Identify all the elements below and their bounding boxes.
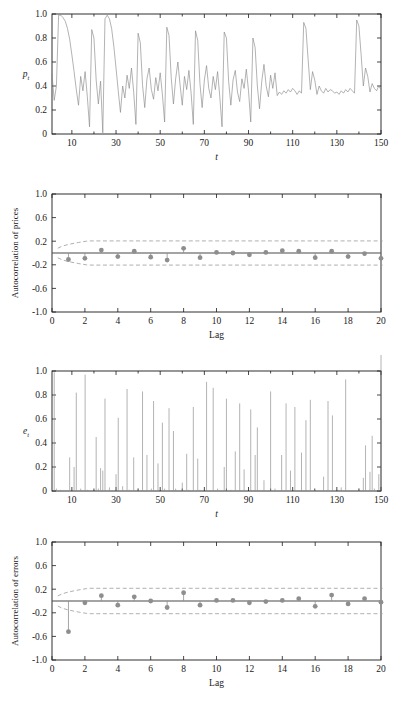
acf-marker xyxy=(214,250,219,255)
x-tick-label: 12 xyxy=(245,664,255,674)
x-tick-label: 50 xyxy=(155,138,165,148)
y-tick-label: 0.2 xyxy=(35,105,47,115)
confidence-lower xyxy=(58,606,383,614)
x-tick-label: 30 xyxy=(111,138,121,148)
acf-marker xyxy=(99,593,104,598)
y-tick-label: 0.6 xyxy=(35,414,47,424)
x-tick-label: 18 xyxy=(343,316,353,326)
x-tick-label: 10 xyxy=(67,495,77,505)
acf-marker xyxy=(362,251,367,256)
x-tick-label: 14 xyxy=(278,664,288,674)
x-tick-label: 70 xyxy=(200,495,210,505)
series-line xyxy=(52,15,381,133)
acf-marker xyxy=(181,246,186,251)
x-tick-label: 18 xyxy=(343,664,353,674)
x-tick-label: 10 xyxy=(67,138,77,148)
confidence-lower xyxy=(58,258,383,265)
x-tick-label: 90 xyxy=(244,495,254,505)
x-tick-label: 14 xyxy=(278,316,288,326)
x-tick-label: 50 xyxy=(155,495,165,505)
acf-marker xyxy=(346,254,351,259)
plot-frame xyxy=(52,371,381,491)
acf-errors-svg: 1.00.60.2-0.2-0.6-1.002468101214161820La… xyxy=(0,530,413,710)
y-tick-label: -0.2 xyxy=(32,260,47,270)
x-tick-label: 0 xyxy=(50,664,55,674)
acf-marker xyxy=(148,255,153,260)
impulse-group xyxy=(54,355,381,491)
acf-marker xyxy=(66,629,71,634)
x-tick-label: 10 xyxy=(212,316,222,326)
acf-marker xyxy=(247,252,252,257)
y-axis-title: pt xyxy=(22,69,30,81)
y-tick-label: 0.4 xyxy=(35,81,47,91)
y-tick-label: -0.2 xyxy=(32,608,47,618)
acf-marker xyxy=(165,605,170,610)
acf-marker xyxy=(247,600,252,605)
acf-stems xyxy=(66,590,383,634)
x-tick-label: 4 xyxy=(115,316,120,326)
acf-marker xyxy=(198,255,203,260)
acf-marker xyxy=(132,249,137,254)
x-tick-label: 90 xyxy=(244,138,254,148)
prices-series-svg: 00.20.40.60.81.01030507090110130150tpt xyxy=(0,0,413,172)
x-tick-label: 70 xyxy=(200,138,210,148)
x-tick-label: 150 xyxy=(374,495,389,505)
y-tick-label: 0.8 xyxy=(35,390,47,400)
x-tick-label: 16 xyxy=(310,664,320,674)
acf-marker xyxy=(198,603,203,608)
x-tick-label: 12 xyxy=(245,316,255,326)
acf-marker xyxy=(165,258,170,263)
x-tick-label: 130 xyxy=(330,138,345,148)
acf-prices-content: 1.00.60.2-0.2-0.6-1.002468101214161820La… xyxy=(10,189,386,340)
panel-prices-series: 00.20.40.60.81.01030507090110130150tpt xyxy=(0,0,413,172)
y-tick-label: 1.0 xyxy=(35,366,47,376)
y-axis-title: Autocorrelation of errors xyxy=(10,556,20,646)
acf-marker xyxy=(148,599,153,604)
acf-marker xyxy=(231,598,236,603)
y-tick-label: 0.2 xyxy=(35,585,47,595)
acf-marker xyxy=(362,596,367,601)
x-tick-label: 6 xyxy=(148,664,153,674)
errors-series-svg: 00.20.40.60.81.01030507090110130150tet xyxy=(0,355,413,530)
acf-marker xyxy=(99,248,104,253)
y-tick-label: 0.4 xyxy=(35,438,47,448)
x-tick-label: 0 xyxy=(50,316,55,326)
y-tick-label: 1.0 xyxy=(35,9,47,19)
x-axis-title: t xyxy=(215,509,218,519)
y-axis-title: Autocorrelation of prices xyxy=(10,207,20,298)
x-tick-label: 8 xyxy=(181,664,186,674)
prices-series-content: 00.20.40.60.81.01030507090110130150tpt xyxy=(22,9,389,162)
errors-series-content: 00.20.40.60.81.01030507090110130150tet xyxy=(23,355,388,519)
x-axis-title: Lag xyxy=(209,678,224,688)
x-tick-label: 2 xyxy=(83,664,88,674)
panel-acf-errors: 1.00.60.2-0.2-0.6-1.002468101214161820La… xyxy=(0,530,413,710)
acf-marker xyxy=(263,250,268,255)
x-tick-label: 30 xyxy=(111,495,121,505)
y-tick-label: 1.0 xyxy=(35,537,47,547)
acf-marker xyxy=(296,596,301,601)
x-tick-label: 6 xyxy=(148,316,153,326)
x-tick-label: 8 xyxy=(181,316,186,326)
x-tick-label: 110 xyxy=(286,138,300,148)
acf-marker xyxy=(313,604,318,609)
acf-errors-content: 1.00.60.2-0.2-0.6-1.002468101214161820La… xyxy=(10,537,386,688)
acf-marker xyxy=(329,593,334,598)
panel-acf-prices: 1.00.60.2-0.2-0.6-1.002468101214161820La… xyxy=(0,172,413,355)
y-tick-label: 0.6 xyxy=(35,213,47,223)
acf-stems xyxy=(66,246,383,263)
acf-marker xyxy=(214,598,219,603)
y-tick-label: 0.2 xyxy=(35,462,47,472)
acf-marker xyxy=(115,603,120,608)
x-tick-label: 20 xyxy=(376,664,386,674)
y-tick-label: -0.6 xyxy=(32,284,47,294)
y-tick-label: 0.6 xyxy=(35,561,47,571)
acf-marker xyxy=(379,256,384,261)
acf-prices-svg: 1.00.60.2-0.2-0.6-1.002468101214161820La… xyxy=(0,172,413,355)
y-tick-label: -0.6 xyxy=(32,632,47,642)
acf-marker xyxy=(181,590,186,595)
x-tick-label: 110 xyxy=(286,495,300,505)
x-tick-label: 150 xyxy=(374,138,389,148)
acf-marker xyxy=(83,600,88,605)
x-axis-title: Lag xyxy=(209,330,224,340)
y-tick-label: 1.0 xyxy=(35,189,47,199)
